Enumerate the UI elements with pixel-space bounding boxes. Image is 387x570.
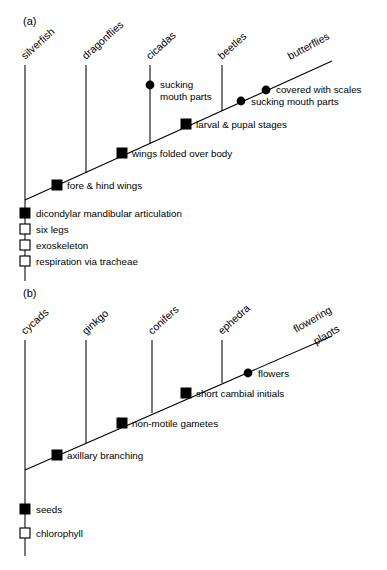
panel-a-trait-label-respiration-via-tracheae: respiration via tracheae: [36, 256, 138, 267]
panel-a-marker-sucking-mouth-parts-butterflies: [237, 97, 246, 106]
panel-a-trait-label-exoskeleton: exoskeleton: [36, 240, 88, 251]
panel-b-marker-chlorophyll: [20, 528, 30, 538]
panel-a-marker-exoskeleton: [20, 240, 30, 250]
panel-b-taxon-label-flowering-plants-line2: plants: [311, 322, 341, 346]
panel-a-marker-fore-hind-wings: [52, 180, 62, 190]
panel-a-taxon-label-cicadas: cicadas: [143, 29, 177, 62]
panel-a-trait-label-cicadas-line2: mouth parts: [160, 91, 212, 102]
panel-a-marker-larval-pupal-stages: [181, 119, 191, 129]
panel-a-trait-label-dicondylar-mandibular-articulation: dicondylar mandibular articulation: [36, 208, 182, 219]
panel-a-trait-label-six-legs: six legs: [36, 224, 69, 235]
panel-b-marker-non-motile-gametes: [117, 418, 127, 428]
panel-a-trait-label-larval-pupal-stages: larval & pupal stages: [196, 119, 287, 130]
panel-a-trait-label-covered-with-scales: covered with scales: [276, 84, 362, 95]
panel-b-trait-label-chlorophyll: chlorophyll: [36, 528, 83, 539]
panel-a-trait-label-fore-hind-wings: fore & hind wings: [67, 180, 142, 191]
panel-a-marker-respiration-via-tracheae: [20, 256, 30, 266]
panel-a: (a) silverfish dragonflies cicadas beetl…: [18, 15, 361, 281]
panel-b-trait-label-non-motile-gametes: non-motile gametes: [132, 418, 218, 429]
panel-b: (b) cycads ginkgo conifers ephedra flowe…: [18, 287, 341, 556]
cladogram-figure: (a) silverfish dragonflies cicadas beetl…: [0, 0, 387, 570]
panel-a-trait-label-cicadas-line1: sucking: [160, 79, 193, 90]
panel-b-marker-axillary-branching: [52, 450, 62, 460]
panel-b-trait-label-flowers: flowers: [258, 368, 289, 379]
panel-b-trait-label-seeds: seeds: [36, 504, 62, 515]
panel-b-taxon-label-ginkgo: ginkgo: [79, 307, 110, 337]
panel-a-taxon-label-dragonflies: dragonflies: [79, 18, 125, 61]
panel-a-marker-covered-with-scales: [262, 86, 271, 95]
panel-a-marker-sucking-mouth-parts-cicadas: [146, 81, 155, 90]
panel-b-marker-seeds: [20, 504, 30, 514]
panel-a-marker-six-legs: [20, 224, 30, 234]
panel-b-taxon-label-ephedra: ephedra: [215, 302, 252, 337]
panel-b-marker-flowers: [244, 369, 253, 378]
panel-a-taxon-label-silverfish: silverfish: [18, 25, 56, 61]
panel-b-trait-label-short-cambial-initials: short cambial initials: [196, 388, 284, 399]
panel-b-marker-short-cambial-initials: [181, 388, 191, 398]
panel-a-trait-label-wings-folded-over-body: wings folded over body: [131, 148, 232, 159]
panel-b-trait-label-axillary-branching: axillary branching: [67, 450, 143, 461]
panel-a-marker-wings-folded-over-body: [117, 148, 127, 158]
panel-a-taxon-label-beetles: beetles: [215, 30, 248, 62]
panel-b-letter: (b): [23, 287, 36, 299]
panel-a-marker-dicondylar-mandibular-articulation: [20, 208, 30, 218]
panel-b-taxon-label-cycads: cycads: [18, 306, 50, 337]
panel-a-taxon-label-butterflies: butterflies: [285, 30, 331, 62]
panel-b-taxon-label-conifers: conifers: [145, 303, 180, 337]
panel-a-trait-label-sucking-mouth-parts: sucking mouth parts: [251, 96, 339, 107]
panel-a-letter: (a): [23, 15, 36, 27]
